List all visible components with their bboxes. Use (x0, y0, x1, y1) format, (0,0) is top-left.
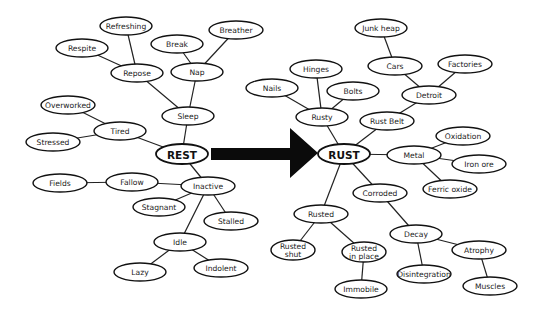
mind-map-canvas: RESTSleepReposeNapRefreshingRespiteBreak… (0, 0, 545, 314)
node-break: Break (151, 35, 203, 53)
node-label: Immobile (343, 285, 379, 294)
node-label: Repose (123, 69, 151, 78)
node-label: Nails (263, 84, 282, 93)
node-detroit: Detroit (402, 86, 456, 104)
node-label: Inactive (193, 182, 223, 191)
node-metal: Metal (387, 146, 441, 164)
node-immobile: Immobile (335, 280, 387, 298)
node-fallow: Fallow (106, 173, 158, 191)
node-cars: Cars (368, 57, 422, 75)
node-rusted: Rusted (294, 205, 348, 223)
node-label: Respite (68, 44, 96, 53)
node-rust-belt: Rust Belt (360, 112, 414, 130)
node-label: RUST (328, 149, 360, 161)
node-indolent: Indolent (194, 259, 248, 277)
node-rust: RUST (318, 144, 370, 164)
node-label: Nap (189, 68, 204, 77)
node-label: Rusted (308, 210, 334, 219)
node-label: Tired (110, 127, 130, 136)
node-label: Factories (448, 60, 482, 69)
node-stalled: Stalled (204, 212, 258, 230)
node-label: Junk heap (361, 24, 400, 33)
node-label: Cars (386, 62, 403, 71)
node-label: Lazy (131, 268, 149, 277)
node-label: Fallow (120, 178, 143, 187)
node-label: Indolent (205, 264, 236, 273)
node-muscles: Muscles (463, 277, 517, 295)
node-label: Muscles (475, 282, 505, 291)
node-decay: Decay (390, 225, 442, 243)
node-label: Sleep (177, 112, 198, 121)
node-rest: REST (156, 144, 208, 164)
node-label: Stalled (218, 217, 244, 226)
node-oxidation: Oxidation (436, 127, 490, 145)
node-factories: Factories (438, 55, 492, 73)
node-label: Disintegration (397, 270, 451, 279)
node-atrophy: Atrophy (452, 241, 506, 259)
node-junk-heap: Junk heap (355, 19, 407, 37)
node-label: Idle (173, 238, 187, 247)
node-bolts: Bolts (327, 82, 379, 100)
node-iron-ore: Iron ore (452, 155, 506, 173)
node-label: Stressed (37, 138, 70, 147)
node-label: Metal (404, 151, 425, 160)
node-disintegration: Disintegration (397, 265, 451, 283)
node-stressed: Stressed (26, 133, 80, 151)
node-corroded: Corroded (353, 184, 407, 202)
node-hinges: Hinges (290, 60, 342, 78)
node-rusty: Rusty (296, 108, 348, 126)
node-nails: Nails (246, 79, 298, 97)
node-inactive: Inactive (181, 177, 235, 195)
node-repose: Repose (111, 64, 163, 82)
node-overworked: Overworked (41, 96, 95, 114)
node-label: Detroit (416, 91, 442, 100)
node-label: Breather (219, 26, 253, 35)
node-idle: Idle (154, 233, 206, 251)
node-label: Rusty (311, 113, 333, 122)
node-label: Rust Belt (370, 117, 404, 126)
node-label: Fields (49, 179, 71, 188)
node-sleep: Sleep (162, 107, 214, 125)
right-arrow-icon (211, 128, 318, 178)
node-label: Ferric oxide (428, 185, 472, 194)
node-label: Break (166, 40, 188, 49)
node-fields: Fields (33, 174, 87, 192)
node-label-line: shut (285, 250, 302, 259)
node-label: REST (167, 149, 198, 161)
node-label: Hinges (303, 65, 329, 74)
node-label: Decay (404, 230, 428, 239)
node-ferric-oxide: Ferric oxide (423, 180, 477, 198)
node-refreshing: Refreshing (100, 17, 152, 35)
node-rusted-shut: Rustedshut (271, 240, 315, 260)
node-nap: Nap (171, 63, 223, 81)
node-label-line: in place (349, 252, 379, 261)
node-label: Stagnant (142, 203, 177, 212)
node-label: Iron ore (464, 160, 494, 169)
node-label: Oxidation (445, 132, 482, 141)
node-label: Overworked (45, 101, 91, 110)
node-label: Refreshing (106, 22, 147, 31)
node-breather: Breather (209, 21, 263, 39)
node-rusted-in-place: Rustedin place (342, 242, 386, 262)
node-label: Atrophy (464, 246, 494, 255)
node-tired: Tired (94, 122, 146, 140)
node-label: Corroded (363, 189, 398, 198)
node-stagnant: Stagnant (133, 198, 185, 216)
node-lazy: Lazy (114, 263, 166, 281)
node-label: Bolts (344, 87, 363, 96)
node-respite: Respite (56, 39, 108, 57)
